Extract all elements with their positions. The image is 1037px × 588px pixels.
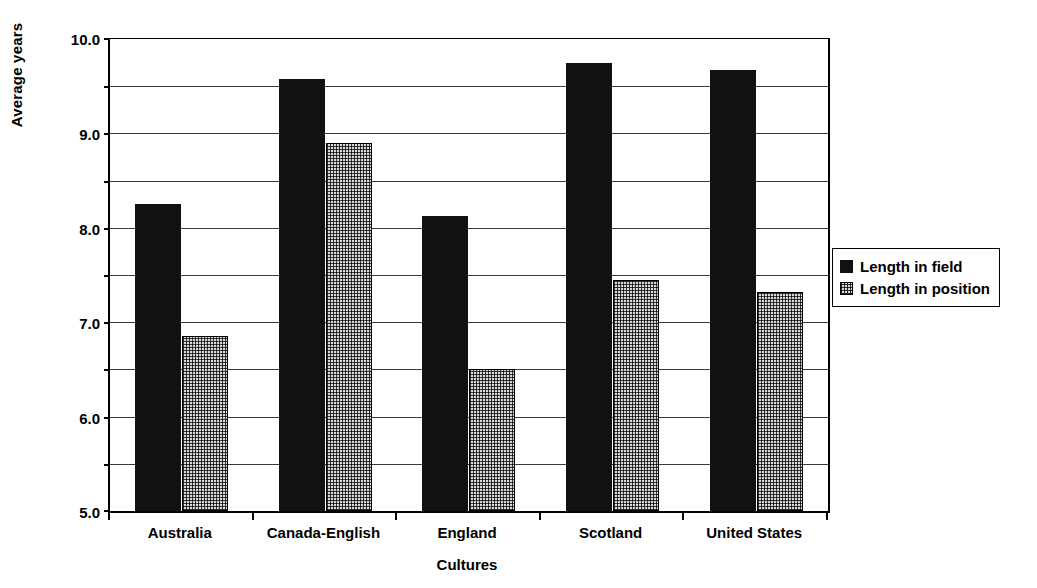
plot-area: 10.09.08.07.06.05.04.03.02.01.00.0 [108, 38, 830, 513]
x-axis-title: Cultures [108, 556, 826, 573]
bar-length-in-position[interactable] [469, 369, 515, 511]
category-label: England [395, 524, 539, 541]
legend-label: Length in position [860, 280, 990, 297]
category-label: Australia [108, 524, 252, 541]
bar-groups [110, 39, 828, 511]
bar-length-in-field[interactable] [135, 204, 181, 511]
legend-label: Length in field [860, 258, 963, 275]
bar-length-in-position[interactable] [613, 280, 659, 511]
category-label: Canada-English [252, 524, 396, 541]
category-tick-mark [252, 512, 254, 520]
bar-length-in-position[interactable] [326, 143, 372, 511]
y-tick-label: 10.0 [71, 31, 100, 48]
bar-group [110, 39, 254, 511]
category-label: Scotland [539, 524, 683, 541]
bar-length-in-position[interactable] [757, 292, 803, 511]
category-axis-labels: AustraliaCanada-EnglishEnglandScotlandUn… [108, 524, 826, 541]
category-tick-mark [395, 512, 397, 520]
bar-length-in-field[interactable] [422, 216, 468, 511]
y-axis-title: Average years [8, 0, 25, 175]
y-tick-label: 9.0 [79, 126, 100, 143]
category-tick-mark [682, 512, 684, 520]
category-tick-mark [539, 512, 541, 520]
bar-length-in-position[interactable] [182, 336, 228, 511]
bar-length-in-field[interactable] [710, 70, 756, 511]
chart-page: Average years 10.09.08.07.06.05.04.03.02… [0, 0, 1037, 588]
bar-group [684, 39, 828, 511]
legend-item[interactable]: Length in position [840, 277, 990, 299]
y-tick-label: 7.0 [79, 315, 100, 332]
category-tick-mark [826, 512, 828, 520]
y-tick-label: 8.0 [79, 220, 100, 237]
bar-length-in-field[interactable] [566, 63, 612, 511]
chart-legend: Length in fieldLength in position [832, 248, 1000, 307]
y-tick-label: 5.0 [79, 504, 100, 521]
y-tick-label: 6.0 [79, 409, 100, 426]
bar-group [254, 39, 398, 511]
legend-item[interactable]: Length in field [840, 255, 990, 277]
bar-group [397, 39, 541, 511]
bar-length-in-field[interactable] [279, 79, 325, 511]
bar-group [541, 39, 685, 511]
category-label: United States [682, 524, 826, 541]
category-tick-mark [108, 512, 110, 520]
category-tick-marks [108, 512, 826, 520]
legend-swatch-icon [840, 282, 853, 295]
legend-swatch-icon [840, 260, 853, 273]
